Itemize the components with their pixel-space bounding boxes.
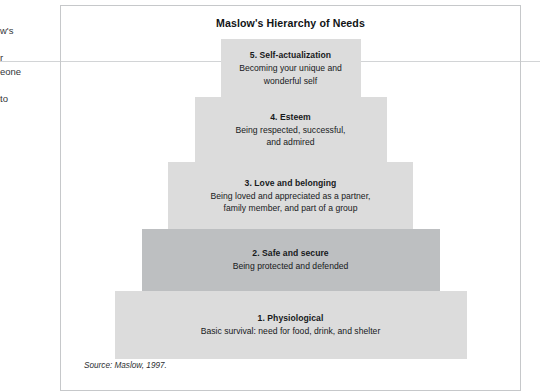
tier-description-line: Being protected and defended [233,260,349,272]
pyramid-tier-3-love-and-belonging: 3. Love and belonging Being loved and ap… [168,162,413,229]
margin-text-line: r [0,51,52,65]
pyramid-tier-4-esteem: 4. Esteem Being respected, successful, a… [195,97,387,162]
margin-body-text: w's r eone to [0,24,52,106]
maslow-pyramid: 5. Self-actualization Becoming your uniq… [61,39,520,359]
pyramid-tier-5-self-actualization: 5. Self-actualization Becoming your uniq… [221,39,361,97]
tier-description-line: family member, and part of a group [224,202,358,214]
figure-title: Maslow's Hierarchy of Needs [61,17,520,29]
pyramid-tier-1-physiological: 1. Physiological Basic survival: need fo… [115,291,467,359]
tier-title: 1. Physiological [258,312,324,324]
tier-description-line: Being loved and appreciated as a partner… [211,190,371,202]
margin-text-line: to [0,92,52,106]
margin-text-line [0,38,52,52]
tier-description-line: Becoming your unique and [239,62,342,74]
tier-title: 5. Self-actualization [250,49,331,61]
tier-description-line: wonderful self [264,75,317,87]
figure-frame: Maslow's Hierarchy of Needs 5. Self-actu… [60,5,521,391]
margin-text-line: eone [0,65,52,79]
tier-title: 4. Esteem [270,111,311,123]
tier-description-line: Basic survival: need for food, drink, an… [201,325,381,337]
tier-description-line: Being respected, successful, [236,124,346,136]
tier-description-line: and admired [267,136,315,148]
tier-title: 3. Love and belonging [245,177,337,189]
pyramid-tier-2-safe-and-secure: 2. Safe and secure Being protected and d… [142,229,440,291]
figure-source-caption: Source: Maslow, 1997. [84,361,167,370]
margin-text-line: w's [0,24,52,38]
margin-text-line [0,78,52,92]
tier-title: 2. Safe and secure [252,247,328,259]
